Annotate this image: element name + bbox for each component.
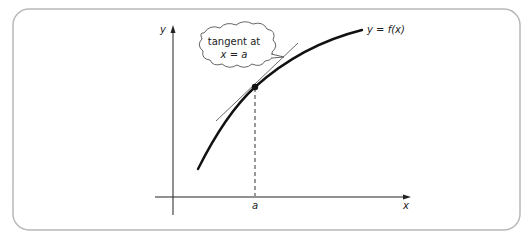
x-axis-arrow-icon: [403, 195, 411, 200]
tangent-point: [252, 84, 258, 90]
x-axis-label: x: [402, 200, 409, 211]
curve-label: y = f(x): [366, 24, 405, 35]
y-axis-label: y: [159, 24, 167, 35]
callout-line-2: x = a: [220, 49, 248, 60]
point-a-label: a: [252, 200, 258, 211]
callout-line-1: tangent at: [208, 36, 260, 47]
y-axis-arrow-icon: [171, 25, 176, 33]
diagram-canvas: tangent at x = a y x a y = f(x): [0, 0, 530, 241]
callout-tail: [271, 54, 284, 58]
